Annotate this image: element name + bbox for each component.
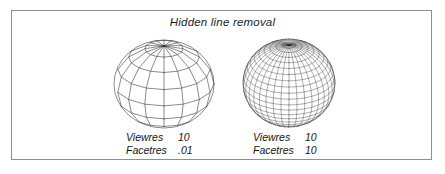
figure-title: Hidden line removal <box>0 16 445 28</box>
viewres-value: 10 <box>305 131 325 144</box>
figure-container: Hidden line removal Viewres10 Facetres.0… <box>0 0 445 174</box>
facetres-label: Facetres <box>253 144 305 157</box>
caption-fine-facetres: Facetres10 <box>253 144 325 157</box>
sphere-fine-wireframe <box>239 37 339 129</box>
viewres-label: Viewres <box>253 131 305 144</box>
viewres-label: Viewres <box>126 131 178 144</box>
caption-fine: Viewres10 Facetres10 <box>253 131 325 156</box>
caption-coarse-viewres: Viewres10 <box>126 131 198 144</box>
viewres-value: 10 <box>178 131 198 144</box>
caption-fine-viewres: Viewres10 <box>253 131 325 144</box>
facetres-value: 10 <box>305 144 325 157</box>
facetres-label: Facetres <box>126 144 178 157</box>
caption-coarse-facetres: Facetres.01 <box>126 144 198 157</box>
caption-coarse: Viewres10 Facetres.01 <box>126 131 198 156</box>
figure-frame <box>11 10 432 160</box>
facetres-value: .01 <box>178 144 198 157</box>
sphere-coarse-wireframe <box>110 38 218 130</box>
